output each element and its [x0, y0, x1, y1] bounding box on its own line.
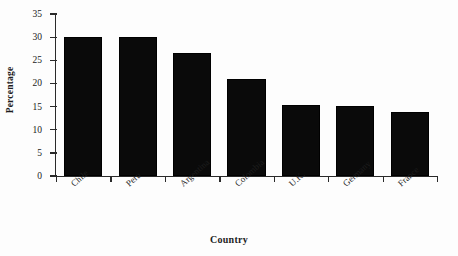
bar [282, 105, 320, 176]
x-axis-tick-mark [219, 176, 220, 182]
y-axis-tick-label: 25 [14, 55, 42, 65]
y-axis-tick-label: 10 [14, 125, 42, 135]
bar [391, 112, 429, 176]
y-axis-tick-label: 20 [14, 78, 42, 88]
y-axis-tick-label: 35 [14, 9, 42, 19]
bar [64, 37, 102, 176]
x-axis-tick-mark [383, 176, 384, 182]
x-axis-tick-mark [274, 176, 275, 182]
x-axis-tick-mark [165, 176, 166, 182]
plot-area [56, 14, 437, 176]
y-axis-tick-label: 0 [14, 171, 42, 181]
x-axis-title: Country [0, 234, 458, 245]
x-axis-tick-mark [56, 176, 57, 182]
y-axis-tick-label: 30 [14, 32, 42, 42]
bar [119, 37, 157, 176]
y-axis-tick-label: 5 [14, 148, 42, 158]
x-axis-tick-mark [328, 176, 329, 182]
x-axis-tick-mark [437, 176, 438, 182]
bar-chart-figure: Percentage 05101520253035 ChilePeruArgen… [0, 0, 458, 256]
y-axis-tick-label: 15 [14, 102, 42, 112]
x-axis-tick-mark [110, 176, 111, 182]
